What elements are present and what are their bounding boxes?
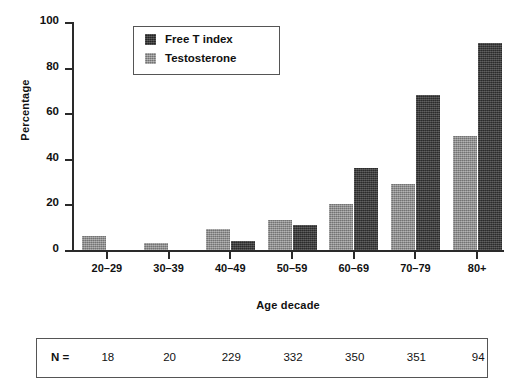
y-tick-label-60: 60 — [46, 105, 59, 117]
x-tick-label-60–69: 60–69 — [324, 262, 384, 274]
sample-size-cell-40–49: 229 — [201, 351, 261, 363]
bar-testosterone-20–29 — [82, 236, 106, 250]
sample-size-cell-50–59: 332 — [263, 351, 323, 363]
x-tick-label-40–49: 40–49 — [200, 262, 260, 274]
bar-testosterone-60–69 — [329, 204, 353, 250]
x-axis-line — [72, 250, 504, 252]
x-tick-70–79 — [414, 251, 416, 259]
y-tick-80: 80 — [65, 68, 72, 70]
bar-chart-figure: Percentage 020406080100 20–2930–3940–495… — [0, 0, 524, 391]
legend-entry-testosterone: Testosterone — [145, 52, 236, 64]
y-tick-40: 40 — [65, 159, 72, 161]
x-tick-50–59 — [291, 251, 293, 259]
legend-swatch-icon-free-t-index — [145, 34, 156, 45]
x-tick-80+ — [476, 251, 478, 259]
x-tick-40–49 — [229, 251, 231, 259]
y-tick-60: 60 — [65, 113, 72, 115]
bar-testosterone-80+ — [453, 136, 477, 250]
legend: Free T index Testosterone — [133, 26, 280, 75]
y-tick-0: 0 — [65, 250, 72, 252]
x-tick-20–29 — [106, 251, 108, 259]
y-tick-label-80: 80 — [46, 60, 59, 72]
x-tick-label-80+: 80+ — [447, 262, 507, 274]
y-tick-label-40: 40 — [46, 151, 59, 163]
y-tick-100: 100 — [65, 22, 72, 24]
x-tick-label-70–79: 70–79 — [385, 262, 445, 274]
legend-label-free-t-index: Free T index — [165, 33, 233, 45]
sample-size-table: N = 182022933235035194 — [36, 338, 488, 378]
y-tick-label-100: 100 — [40, 14, 59, 26]
bar-free-t-index-50–59 — [293, 225, 317, 250]
x-tick-label-20–29: 20–29 — [77, 262, 137, 274]
y-axis-title: Percentage — [19, 40, 31, 180]
x-tick-60–69 — [353, 251, 355, 259]
bar-free-t-index-80+ — [478, 43, 502, 250]
bar-testosterone-40–49 — [206, 229, 230, 250]
bar-testosterone-50–59 — [268, 220, 292, 250]
y-tick-20: 20 — [65, 204, 72, 206]
legend-label-testosterone: Testosterone — [165, 52, 236, 64]
sample-size-cell-70–79: 351 — [386, 351, 446, 363]
bar-free-t-index-60–69 — [354, 168, 378, 250]
sample-size-cell-20–29: 18 — [78, 351, 138, 363]
legend-swatch-icon-testosterone — [145, 53, 156, 64]
y-tick-label-20: 20 — [46, 196, 59, 208]
x-axis-title: Age decade — [72, 299, 504, 311]
x-tick-label-50–59: 50–59 — [262, 262, 322, 274]
bar-testosterone-30–39 — [144, 243, 168, 250]
x-tick-label-30–39: 30–39 — [139, 262, 199, 274]
sample-size-label: N = — [51, 351, 69, 363]
legend-entry-free-t-index: Free T index — [145, 33, 233, 45]
y-tick-label-0: 0 — [53, 242, 59, 254]
bar-free-t-index-40–49 — [231, 241, 255, 250]
bar-testosterone-70–79 — [391, 184, 415, 250]
sample-size-cell-30–39: 20 — [140, 351, 200, 363]
x-tick-30–39 — [168, 251, 170, 259]
bar-free-t-index-70–79 — [416, 95, 440, 250]
sample-size-cell-80+: 94 — [448, 351, 508, 363]
sample-size-cell-60–69: 350 — [325, 351, 385, 363]
